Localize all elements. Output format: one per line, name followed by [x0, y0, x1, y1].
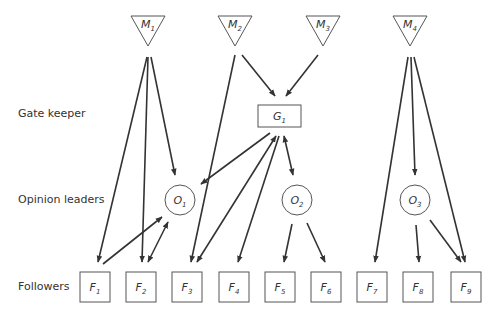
- opinion-leader-node-o1: O1: [165, 185, 195, 215]
- media-node-m1: M1: [131, 16, 165, 46]
- gatekeeper-nodes: G1: [258, 105, 301, 127]
- follower-node-f8: F8: [403, 272, 433, 302]
- follower-node-f6: F6: [311, 272, 341, 302]
- opinion-leader-node-o3: O3: [400, 185, 430, 215]
- edge-g1-o2: [284, 136, 293, 175]
- media-node-m4: M4: [393, 16, 427, 46]
- follower-node-f3: F3: [172, 272, 202, 302]
- media-node-m3: M3: [306, 16, 340, 46]
- follower-node-f4: F4: [219, 272, 249, 302]
- follower-node-f7: F7: [357, 272, 387, 302]
- media-nodes: M1M2M3M4: [131, 16, 427, 46]
- edge-m2-f3: [191, 55, 235, 262]
- edge-m3-g1: [286, 55, 318, 96]
- edge-o3-f8: [416, 225, 419, 262]
- edge-g1-f4: [238, 136, 279, 262]
- edge-g1-f3: [197, 136, 276, 262]
- follower-node-f5: F5: [265, 272, 295, 302]
- opinion-leader-node-o2: O2: [282, 185, 312, 215]
- follower-node-f1: F1: [80, 272, 110, 302]
- edge-o2-f5: [284, 224, 292, 262]
- communication-flow-diagram: M1M2M3M4 G1 O1O2O3 F1F2F3F4F5F6F7F8F9: [0, 0, 489, 317]
- edge-o2-f6: [307, 223, 325, 262]
- edge-m1-o1: [151, 57, 175, 175]
- edge-f1-o1: [103, 217, 162, 264]
- media-node-m2: M2: [218, 16, 252, 46]
- follower-nodes: F1F2F3F4F5F6F7F8F9: [80, 272, 481, 302]
- edge-m4-o3: [411, 57, 415, 175]
- edge-m4-f7: [375, 57, 408, 262]
- follower-node-f9: F9: [451, 272, 481, 302]
- follower-node-f2: F2: [126, 272, 156, 302]
- edge-g1-o1: [201, 133, 270, 184]
- edge-m4-f9: [414, 57, 465, 262]
- edge-m2-g1: [242, 55, 275, 96]
- edges: [98, 55, 465, 264]
- edge-f2-o1: [148, 222, 168, 262]
- edge-m1-f1: [98, 57, 147, 262]
- gatekeeper-node-g1: G1: [258, 105, 301, 127]
